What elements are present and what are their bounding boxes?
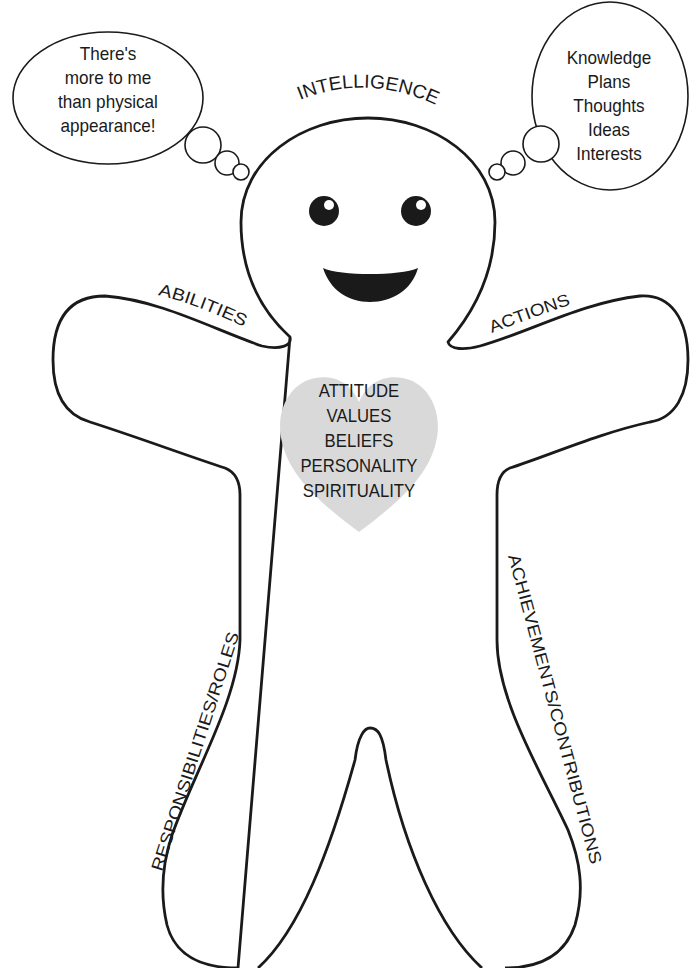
- label-responsibilities-roles: RESPONSIBILITIES/ROLES: [148, 630, 243, 874]
- label-intelligence: INTELLIGENCE: [294, 71, 443, 109]
- heart-line: SPIRITUALITY: [289, 478, 428, 503]
- right-bubble-line: Interests: [554, 142, 664, 166]
- heart-line: VALUES: [289, 403, 428, 428]
- left-eye-icon: [309, 196, 339, 226]
- right-bubble-text: Knowledge Plans Thoughts Ideas Interests: [548, 46, 670, 166]
- right-eye-icon: [401, 196, 431, 226]
- left-bubble-line: more to me: [45, 66, 171, 90]
- heart-line: PERSONALITY: [289, 453, 428, 478]
- label-achievements-contributions: ACHIEVEMENTS/CONTRIBUTIONS: [504, 552, 605, 866]
- right-bubble-line: Plans: [554, 70, 664, 94]
- inner-leg-outline: [258, 728, 482, 968]
- face: [309, 196, 431, 302]
- right-bubble-line: Thoughts: [554, 94, 664, 118]
- heart-text: ATTITUDE VALUES BELIEFS PERSONALITY SPIR…: [280, 378, 438, 503]
- left-bubble-text: There's more to me than physical appeara…: [38, 42, 178, 138]
- heart-line: BELIEFS: [289, 428, 428, 453]
- smile-icon: [323, 268, 418, 302]
- right-bubble-line: Knowledge: [554, 46, 664, 70]
- heart-line: ATTITUDE: [289, 378, 428, 403]
- left-bubble-line: appearance!: [45, 114, 171, 138]
- left-bubble-line: There's: [45, 42, 171, 66]
- right-bubble-line: Ideas: [554, 118, 664, 142]
- left-bubble-line: than physical: [45, 90, 171, 114]
